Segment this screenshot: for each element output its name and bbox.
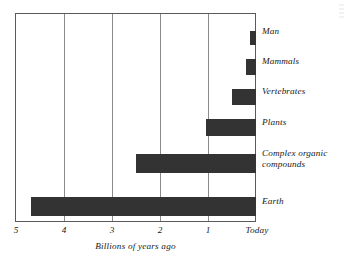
bar-plants xyxy=(206,119,256,136)
x-tick-4: 4 xyxy=(62,225,67,235)
category-label-complex-organic-compounds: Complex organic compounds xyxy=(262,148,327,169)
bar-man xyxy=(250,31,256,45)
gridline-2 xyxy=(160,14,161,221)
bar-mammals xyxy=(246,59,256,75)
category-label-earth: Earth xyxy=(262,196,284,207)
category-label-mammals: Mammals xyxy=(262,56,299,67)
x-tick-2: 2 xyxy=(158,225,163,235)
gridline-4 xyxy=(64,14,65,221)
gridline-1 xyxy=(208,14,209,221)
x-tick-5: 5 xyxy=(14,225,19,235)
plot-area xyxy=(15,13,256,222)
category-label-man: Man xyxy=(262,26,279,37)
bar-vertebrates xyxy=(232,89,256,105)
x-tick-3: 3 xyxy=(110,225,115,235)
x-tick-1: 1 xyxy=(206,225,211,235)
category-label-plants: Plants xyxy=(262,117,286,128)
gridline-3 xyxy=(112,14,113,221)
x-axis-title: Billions of years ago xyxy=(0,241,271,251)
category-label-vertebrates: Vertebrates xyxy=(262,86,306,97)
bar-earth xyxy=(31,197,256,216)
x-tick-today: Today xyxy=(245,225,268,235)
scan-artifact xyxy=(339,4,344,22)
evolution-timeline-bar-chart: Man Mammals Vertebrates Plants Complex o… xyxy=(0,0,350,267)
bar-complex-organic-compounds xyxy=(136,154,256,173)
